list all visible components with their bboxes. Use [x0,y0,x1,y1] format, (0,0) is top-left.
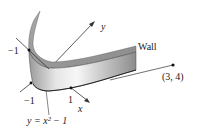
curve-equation-label: y = x² − 1 [27,116,67,126]
axis-label-y: y [101,22,105,32]
axis-label-x: x [78,104,82,114]
tick-point-neg1-y [28,49,31,52]
tick-point-neg1-x [30,82,33,85]
tick-label-1-x: 1 [68,95,73,105]
wall-front-surface [29,50,136,91]
point-label: (3, 4) [162,72,184,82]
curve-label-leader [46,90,49,115]
tick-point-1-x [70,87,73,90]
wall-label: Wall [138,42,157,52]
neg-x-axis [20,84,30,92]
tick-label-neg1-x: −1 [24,96,35,106]
wall-diagram [0,0,200,131]
tick-label-neg1-y: −1 [8,46,19,56]
point-3-4 [171,63,174,66]
